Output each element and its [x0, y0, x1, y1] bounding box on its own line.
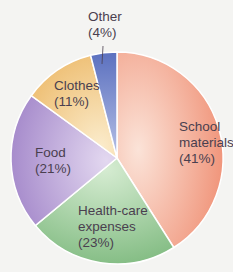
label-school-line1: School — [179, 119, 233, 135]
label-clothes-line1: Clothes — [54, 78, 100, 94]
label-other-line2: (4%) — [88, 25, 122, 41]
label-other-line1: Other — [88, 9, 122, 25]
label-health: Health-care expenses (23%) — [78, 203, 148, 251]
label-clothes-line2: (11%) — [54, 94, 100, 110]
label-food-line1: Food — [35, 145, 71, 161]
label-school-line3: (41%) — [179, 151, 233, 167]
label-school: School materials (41%) — [179, 119, 233, 167]
label-health-line2: expenses — [78, 219, 148, 235]
label-school-line2: materials — [179, 135, 233, 151]
label-food-line2: (21%) — [35, 161, 71, 177]
label-health-line3: (23%) — [78, 235, 148, 251]
label-food: Food (21%) — [35, 145, 71, 177]
label-clothes: Clothes (11%) — [54, 78, 100, 110]
label-health-line1: Health-care — [78, 203, 148, 219]
label-other: Other (4%) — [88, 9, 122, 41]
